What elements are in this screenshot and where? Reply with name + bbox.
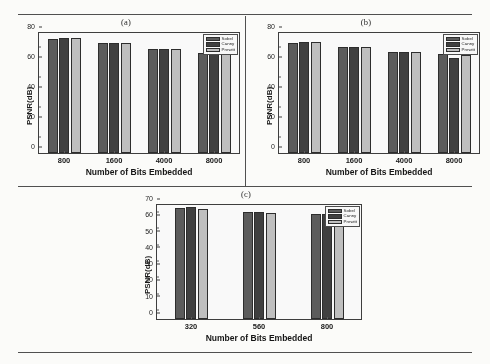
bar-prewitt <box>311 42 321 153</box>
chart-c-y-minor-tick <box>157 261 159 262</box>
chart-a-legend: SobelCannyPrewitt <box>203 34 238 55</box>
chart-b-y-minor-tick <box>279 137 281 138</box>
chart-a-group: 4000 <box>139 33 189 153</box>
chart-c-plot-area: 320560800 010203040506070 SobelCannyPrew… <box>156 204 362 320</box>
chart-c-x-axis-label: Number of Bits Embedded <box>156 333 362 343</box>
bar-sobel <box>311 214 321 319</box>
chart-b-x-tick <box>404 151 405 154</box>
bar-prewitt <box>221 53 231 154</box>
chart-a-x-tick <box>164 151 165 154</box>
bar-canny <box>186 207 196 319</box>
chart-b-plot-area: 800160040008000 020406080 SobelCannyPrew… <box>278 32 480 154</box>
chart-a-x-axis-label: Number of Bits Embedded <box>38 167 240 177</box>
legend-swatch-sobel <box>446 37 460 42</box>
chart-c-y-minor-tick <box>157 277 159 278</box>
chart-a-plot-area: 800160040008000 020406080 SobelCannyPrew… <box>38 32 240 154</box>
chart-b-x-axis-label: Number of Bits Embedded <box>278 167 480 177</box>
bar-prewitt <box>266 213 276 319</box>
bar-sobel <box>243 212 253 319</box>
legend-label-prewitt: Prewitt <box>462 48 475 53</box>
bar-sobel <box>198 53 208 154</box>
chart-panel-b: (b) PSNR(dB) 800160040008000 020406080 S… <box>248 16 484 184</box>
chart-c-x-tick-label: 320 <box>185 322 198 331</box>
legend-label-prewitt: Prewitt <box>222 48 235 53</box>
vertical-divider <box>245 16 246 186</box>
legend-entry-canny: Canny <box>446 42 475 47</box>
chart-b-y-tick-label: 0 <box>271 143 279 150</box>
chart-a-y-tick-label: 60 <box>27 53 39 60</box>
chart-c: PSNR(dB) 320560800 010203040506070 Sobel… <box>126 200 366 350</box>
bar-canny <box>159 49 169 153</box>
bar-sobel <box>388 52 398 153</box>
bar-prewitt <box>71 38 81 153</box>
chart-c-group: 320 <box>157 205 225 319</box>
chart-c-y-tick-label: 10 <box>145 292 157 299</box>
bar-canny <box>349 47 359 153</box>
bar-sobel <box>98 43 108 153</box>
chart-b-group: 800 <box>279 33 329 153</box>
chart-b-y-tick-label: 20 <box>267 113 279 120</box>
chart-b-legend: SobelCannyPrewitt <box>443 34 478 55</box>
chart-b-x-tick-label: 800 <box>298 156 311 165</box>
bar-prewitt <box>198 209 208 319</box>
bar-sobel <box>175 208 185 319</box>
chart-b: PSNR(dB) 800160040008000 020406080 Sobel… <box>248 28 484 184</box>
legend-swatch-sobel <box>206 37 220 42</box>
bar-canny <box>59 38 69 153</box>
chart-c-y-minor-tick <box>157 309 159 310</box>
chart-b-y-minor-tick <box>279 77 281 78</box>
chart-a-y-tick-label: 20 <box>27 113 39 120</box>
legend-swatch-prewitt <box>328 220 342 225</box>
panel-c-title: (c) <box>126 188 366 200</box>
chart-a-group: 1600 <box>89 33 139 153</box>
bar-sobel <box>438 54 448 153</box>
legend-label-canny: Canny <box>462 42 475 47</box>
chart-a-y-minor-tick <box>39 137 41 138</box>
legend-swatch-prewitt <box>206 48 220 53</box>
chart-b-y-tick-label: 40 <box>267 83 279 90</box>
chart-c-y-minor-tick <box>157 228 159 229</box>
bar-sobel <box>288 43 298 153</box>
legend-label-prewitt: Prewitt <box>344 220 357 225</box>
chart-a-x-tick-label: 1600 <box>106 156 123 165</box>
panel-a-title: (a) <box>8 16 244 28</box>
chart-a-x-tick <box>214 151 215 154</box>
chart-a-x-tick <box>64 151 65 154</box>
legend-swatch-canny <box>206 42 220 47</box>
chart-c-x-tick <box>191 317 192 320</box>
legend-entry-prewitt: Prewitt <box>446 48 475 53</box>
chart-b-group: 1600 <box>329 33 379 153</box>
chart-b-x-tick-label: 1600 <box>346 156 363 165</box>
bar-sobel <box>48 39 58 153</box>
chart-c-y-tick-label: 40 <box>145 243 157 250</box>
chart-c-group: 560 <box>225 205 293 319</box>
chart-a-y-tick-label: 80 <box>27 23 39 30</box>
legend-entry-prewitt: Prewitt <box>328 220 357 225</box>
chart-c-y-tick-label: 70 <box>145 195 157 202</box>
bar-canny <box>449 58 459 153</box>
chart-c-legend: SobelCannyPrewitt <box>325 206 360 227</box>
bar-prewitt <box>461 55 471 153</box>
chart-c-y-tick-label: 50 <box>145 227 157 234</box>
chart-b-y-tick-label: 80 <box>267 23 279 30</box>
chart-c-x-tick-label: 560 <box>253 322 266 331</box>
chart-c-x-tick-label: 800 <box>321 322 334 331</box>
chart-a-y-tick-label: 40 <box>27 83 39 90</box>
chart-a-x-tick-label: 8000 <box>206 156 223 165</box>
chart-c-x-tick <box>327 317 328 320</box>
chart-c-y-minor-tick <box>157 212 159 213</box>
chart-a: PSNR(dB) 800160040008000 020406080 Sobel… <box>8 28 244 184</box>
chart-a-y-minor-tick <box>39 47 41 48</box>
chart-c-y-tick-label: 30 <box>145 260 157 267</box>
legend-swatch-prewitt <box>446 48 460 53</box>
chart-b-x-tick <box>454 151 455 154</box>
chart-a-y-minor-tick <box>39 77 41 78</box>
bar-canny <box>299 42 309 153</box>
legend-entry-prewitt: Prewitt <box>206 48 235 53</box>
bar-prewitt <box>171 49 181 153</box>
chart-c-y-tick-label: 20 <box>145 276 157 283</box>
chart-b-y-tick-label: 60 <box>267 53 279 60</box>
bar-canny <box>322 214 332 319</box>
chart-panel-c: (c) PSNR(dB) 320560800 010203040506070 S… <box>126 188 366 350</box>
panel-b-title: (b) <box>248 16 484 28</box>
